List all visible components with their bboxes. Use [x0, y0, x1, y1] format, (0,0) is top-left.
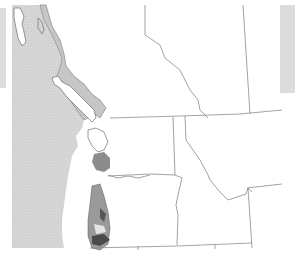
border-id-wy — [248, 188, 252, 248]
map-svg — [0, 0, 300, 256]
border-or-id — [175, 175, 182, 245]
border-wa-id — [173, 117, 175, 175]
border-south — [90, 243, 252, 248]
puget-shaded — [92, 152, 110, 172]
border-alberta-sask — [243, 5, 250, 114]
borders — [90, 5, 282, 250]
border-bc-alberta — [145, 5, 208, 118]
map-container — [0, 0, 300, 256]
border-canada-us — [110, 110, 282, 118]
left-side-panel — [0, 8, 6, 88]
puget-sound — [88, 128, 108, 152]
border-id-mt — [185, 116, 252, 200]
right-side-panel — [280, 5, 295, 93]
border-wa-or — [108, 174, 175, 176]
border-mt-wy — [247, 184, 282, 188]
